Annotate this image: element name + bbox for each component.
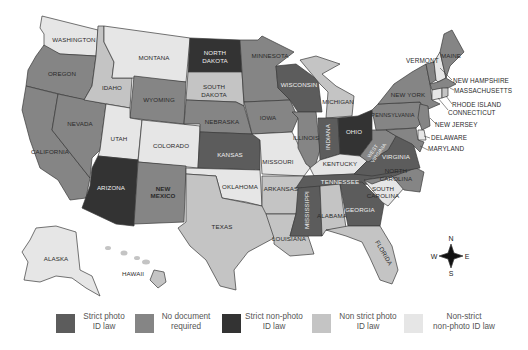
label-north-dakota: NORTH [204,49,226,56]
label-virginia: VIRGINIA [382,153,411,160]
state-new-jersey[interactable] [418,104,430,130]
svg-text:CAROLINA: CAROLINA [367,192,400,199]
compass-rose: N S E W [431,235,470,277]
label-michigan: MICHIGAN [322,98,354,105]
label-texas: TEXAS [212,223,233,230]
label-arkansas: ARKANSAS [264,185,299,192]
label-ohio: OHIO [346,128,362,135]
label-pennsylvania: PENNSYLVANIA [371,112,414,118]
svg-text:DAKOTA: DAKOTA [201,91,227,98]
label-kansas: KANSAS [217,151,243,158]
label-alabama: ALABAMA [317,212,348,219]
label-hawaii: HAWAII [122,270,144,277]
label-north-carolina: NORTH [385,167,407,174]
legend-swatch [222,314,241,333]
svg-text:CAROLINA: CAROLINA [380,175,413,182]
legend-label: Strict non-photo ID law [240,312,308,332]
legend-label: No document required [155,312,217,332]
label-new-york: NEW YORK [391,91,426,98]
label-delaware: DELAWARE [431,134,467,141]
state-hawaii[interactable] [105,246,166,288]
label-wyoming: WYOMING [143,96,175,103]
label-montana: MONTANA [138,54,170,61]
label-oklahoma: OKLAHOMA [222,183,259,190]
label-rhode-island: RHODE ISLAND [452,101,501,108]
label-south-carolina: SOUTH [372,185,394,192]
label-kentucky: KENTUCKY [323,160,358,167]
legend-label: Non strict photo ID law [334,312,402,332]
label-south-dakota: SOUTH [203,83,225,90]
state-connecticut[interactable] [432,88,442,100]
legend-swatch [312,314,331,333]
label-new-hampshire: NEW HAMPSHIRE [453,77,509,84]
us-voter-id-map: WASHINGTON OREGON CALIFORNIA NEVADA IDAH… [0,0,528,300]
label-massachusetts: MASSACHUSETTS [454,87,512,94]
label-minnesota: MINNESOTA [251,52,289,59]
label-connecticut: CONNECTICUT [448,109,496,116]
compass-n: N [448,235,453,242]
compass-w: W [431,253,438,260]
svg-text:DAKOTA: DAKOTA [202,57,228,64]
label-maryland: MARYLAND [428,145,464,152]
compass-star-icon [439,244,463,268]
label-wisconsin: WISCONSIN [281,81,318,88]
label-washington: WASHINGTON [52,36,95,43]
label-nebraska: NEBRASKA [205,118,240,125]
state-delaware[interactable] [418,130,426,140]
legend-swatch [404,314,423,333]
label-indiana: INDIANA [324,123,331,150]
label-colorado: COLORADO [153,142,189,149]
label-iowa: IOWA [260,114,277,121]
svg-text:MEXICO: MEXICO [150,192,175,199]
label-utah: UTAH [111,135,128,142]
label-maine: MAINE [441,52,461,59]
state-rhode-island[interactable] [442,88,448,98]
label-louisiana: LOUISIANA [272,235,307,242]
compass-s: S [449,270,454,277]
legend-swatch [56,314,75,333]
legend-swatch [135,314,154,333]
label-nevada: NEVADA [67,120,93,127]
label-california: CALIFORNIA [31,148,70,155]
label-arizona: ARIZONA [97,184,126,191]
label-alaska: ALASKA [44,255,69,262]
compass-e: E [465,253,470,260]
label-illinois: ILLINOIS [293,134,319,141]
label-new-jersey: NEW JERSEY [435,121,478,128]
label-vermont: VERMONT [406,57,439,64]
label-georgia: GEORGIA [345,206,375,213]
label-mississippi: MISSISSIPPI [303,191,310,229]
label-tennessee: TENNESSEE [321,178,359,185]
label-missouri: MISSOURI [262,158,294,165]
label-new-mexico: NEW [156,185,171,192]
legend-label: Strict photo ID law [74,312,134,332]
label-oregon: OREGON [48,70,76,77]
legend-label: Non-strict non-photo ID law [424,312,504,332]
legend: Strict photo ID law No document required… [0,306,528,342]
label-idaho: IDAHO [102,84,122,91]
